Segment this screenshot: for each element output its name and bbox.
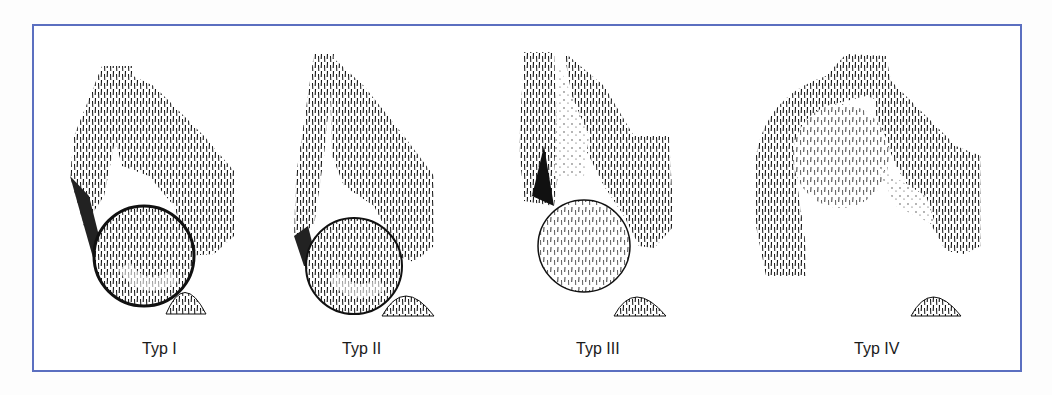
hip-joint-typ-2-illustration xyxy=(284,26,484,370)
panel-label: Typ II xyxy=(342,340,381,358)
panel-typ-2: Typ II xyxy=(284,26,484,370)
panel-typ-4: Typ IV xyxy=(746,26,1022,370)
hip-joint-typ-4-illustration xyxy=(746,26,1022,370)
panel-typ-3: Typ III xyxy=(514,26,734,370)
panel-label: Typ IV xyxy=(854,340,899,358)
panel-label: Typ III xyxy=(576,340,620,358)
figure-frame: Typ I Typ II Typ III xyxy=(32,24,1022,372)
panel-typ-1: Typ I xyxy=(34,26,274,370)
panel-label: Typ I xyxy=(142,340,177,358)
hip-joint-typ-1-illustration xyxy=(34,26,274,370)
hip-joint-typ-3-illustration xyxy=(514,26,734,370)
